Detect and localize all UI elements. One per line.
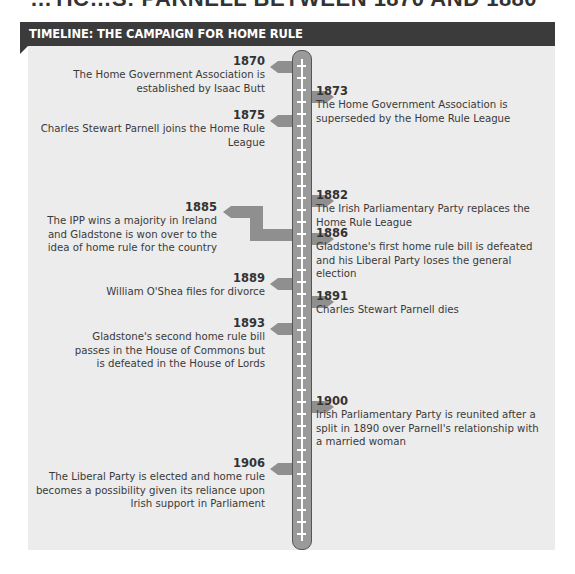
event-text: The Home Government Association is super… <box>316 98 526 125</box>
axis-tick <box>297 377 306 379</box>
axis-tick <box>297 89 306 91</box>
axis-tick <box>297 245 306 247</box>
axis-tick <box>297 149 306 151</box>
axis-tick <box>297 341 306 343</box>
axis-tick <box>297 401 306 403</box>
event-text: The Irish Parliamentary Party replaces t… <box>316 202 536 229</box>
event-1900: 1900 Irish Parliamentary Party is reunit… <box>316 394 546 449</box>
axis-tick <box>297 425 306 427</box>
event-1893: 1893 Gladstone's second home rule bill p… <box>70 316 265 371</box>
axis-tick <box>297 305 306 307</box>
event-text: Gladstone's first home rule bill is defe… <box>316 240 546 281</box>
event-text: Charles Stewart Parnell joins the Home R… <box>30 122 265 149</box>
event-year: 1886 <box>316 226 546 240</box>
event-year: 1893 <box>70 316 265 330</box>
event-year: 1906 <box>30 456 265 470</box>
event-text: The Home Government Association is estab… <box>60 68 265 95</box>
axis-tick <box>297 533 306 535</box>
axis-tick <box>297 209 306 211</box>
timeline-panel: TIMELINE: THE CAMPAIGN FOR HOME RULE 187… <box>20 22 555 550</box>
axis-tick <box>297 461 306 463</box>
event-year: 1870 <box>60 54 265 68</box>
event-1889: 1889 William O'Shea files for divorce <box>60 271 265 299</box>
axis-centerline <box>301 59 303 541</box>
axis-tick <box>297 113 306 115</box>
event-year: 1900 <box>316 394 546 408</box>
event-1873: 1873 The Home Government Association is … <box>316 84 526 125</box>
axis-tick <box>297 521 306 523</box>
event-1870: 1870 The Home Government Association is … <box>60 54 265 95</box>
axis-tick <box>297 413 306 415</box>
event-1882: 1882 The Irish Parliamentary Party repla… <box>316 188 536 229</box>
event-text: The Liberal Party is elected and home ru… <box>30 470 265 511</box>
axis-tick <box>297 329 306 331</box>
event-text: Gladstone's second home rule bill passes… <box>70 330 265 371</box>
axis-tick <box>297 497 306 499</box>
axis-tick <box>297 221 306 223</box>
event-1885: 1885 The IPP wins a majority in Ireland … <box>25 200 217 255</box>
axis-tick <box>297 281 306 283</box>
page-heading-cropped: …TIC…S: PARNELL BETWEEN 1870 AND 1880 <box>30 0 550 6</box>
axis-tick <box>297 161 306 163</box>
axis-tick <box>297 509 306 511</box>
event-year: 1873 <box>316 84 526 98</box>
event-year: 1889 <box>60 271 265 285</box>
event-year: 1882 <box>316 188 536 202</box>
event-1875: 1875 Charles Stewart Parnell joins the H… <box>30 108 265 149</box>
event-1886: 1886 Gladstone's first home rule bill is… <box>316 226 546 281</box>
event-year: 1875 <box>30 108 265 122</box>
axis-tick <box>297 293 306 295</box>
axis-tick <box>297 77 306 79</box>
event-text: Charles Stewart Parnell dies <box>316 303 536 317</box>
axis-tick <box>297 185 306 187</box>
axis-tick <box>297 485 306 487</box>
axis-tick <box>297 125 306 127</box>
header-fold-decoration <box>20 46 28 54</box>
axis-tick <box>297 173 306 175</box>
axis-tick <box>297 365 306 367</box>
axis-tick <box>297 101 306 103</box>
event-text: The IPP wins a majority in Ireland and G… <box>25 214 217 255</box>
axis-tick <box>297 197 306 199</box>
axis-tick <box>297 353 306 355</box>
event-year: 1885 <box>25 200 217 214</box>
axis-tick <box>297 389 306 391</box>
axis-tick <box>297 233 306 235</box>
event-text: William O'Shea files for divorce <box>60 285 265 299</box>
axis-tick <box>297 473 306 475</box>
event-text: Irish Parliamentary Party is reunited af… <box>316 408 546 449</box>
axis-tick <box>297 437 306 439</box>
panel-title: TIMELINE: THE CAMPAIGN FOR HOME RULE <box>20 22 555 46</box>
event-year: 1891 <box>316 289 536 303</box>
timeline-axis <box>292 50 312 550</box>
axis-tick <box>297 269 306 271</box>
event-1891: 1891 Charles Stewart Parnell dies <box>316 289 536 317</box>
event-1906: 1906 The Liberal Party is elected and ho… <box>30 456 265 511</box>
axis-tick <box>297 317 306 319</box>
axis-tick <box>297 65 306 67</box>
axis-tick <box>297 449 306 451</box>
axis-tick <box>297 257 306 259</box>
axis-tick <box>297 137 306 139</box>
